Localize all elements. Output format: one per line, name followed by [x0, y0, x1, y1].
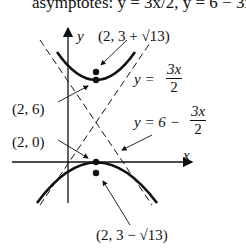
asymptote-1-denominator: 2	[166, 79, 182, 95]
label-vertex-upper: (2, 6)	[12, 102, 45, 117]
focus-upper-dot	[93, 69, 99, 75]
y-axis-label: y	[77, 29, 84, 44]
asymptote-1-lhs: y =	[134, 72, 155, 87]
label-focus-lower: (2, 3 − √13)	[96, 228, 168, 243]
asymptote-1-numerator: 3x	[166, 62, 182, 79]
lower-branch	[37, 163, 157, 204]
asymptote-2-lhs: y = 6 −	[134, 115, 180, 130]
hyperbola-diagram: asymptotes: y = 3x/2, y = 6 − 3x/2	[0, 0, 246, 249]
asymptote-2-fraction: 3x 2	[190, 104, 206, 137]
x-axis-label: x	[183, 148, 190, 163]
vertex-lower-dot	[93, 159, 99, 165]
asymptote-2-numerator: 3x	[190, 104, 206, 121]
vertex-upper-dot	[93, 77, 99, 83]
label-vertex-lower: (2, 0)	[12, 135, 45, 150]
label-focus-upper: (2, 3 + √13)	[98, 29, 170, 44]
asymptote-2-denominator: 2	[190, 121, 206, 137]
focus-lower-dot	[93, 170, 99, 176]
upper-branch	[57, 52, 135, 80]
asymptote-1-fraction: 3x 2	[166, 62, 182, 95]
